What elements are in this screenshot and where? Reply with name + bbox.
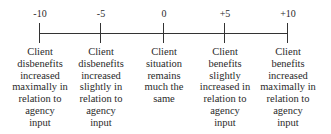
tick-zero [163,23,164,43]
desc-line: Client [68,46,134,58]
desc-line: Client [131,46,197,58]
desc-line: input [68,117,134,129]
tick-plus-10 [287,23,288,43]
tick-label-minus-10: -10 [20,8,60,20]
desc-line: situation [131,58,197,70]
desc-line: relation to [68,93,134,105]
desc-line: same [131,93,197,105]
desc-line: increased in [192,81,258,93]
desc-line: input [7,117,73,129]
desc-line: input [192,117,258,129]
desc-line: maximally in [255,81,321,93]
desc-line: relation to [192,93,258,105]
desc-line: remains [131,70,197,82]
desc-line: benefits [255,58,321,70]
desc-line: slightly [192,70,258,82]
desc-line: increased [255,70,321,82]
desc-line: slightly in [68,81,134,93]
desc-line: benefits [192,58,258,70]
tick-label-plus-10: +10 [268,8,308,20]
desc-line: Client [255,46,321,58]
description-plus-5: Client benefits slightly increased in re… [192,46,258,129]
tick-minus-10 [39,23,40,43]
desc-line: maximally in [7,81,73,93]
desc-line: much the [131,81,197,93]
desc-line: disbenefits [68,58,134,70]
desc-line: relation to [7,93,73,105]
desc-line: input [255,117,321,129]
desc-line: disbenefits [7,58,73,70]
description-minus-10: Client disbenefits increased maximally i… [7,46,73,129]
desc-line: agency [255,105,321,117]
desc-line: agency [7,105,73,117]
description-plus-10: Client benefits increased maximally in r… [255,46,321,129]
desc-line: Client [192,46,258,58]
desc-line: Client [7,46,73,58]
tick-label-zero: 0 [144,8,184,20]
tick-label-plus-5: +5 [205,8,245,20]
desc-line: agency [192,105,258,117]
desc-line: agency [68,105,134,117]
desc-line: increased [7,70,73,82]
desc-line: increased [68,70,134,82]
tick-minus-5 [100,23,101,43]
description-zero: Client situation remains much the same [131,46,197,105]
desc-line: relation to [255,93,321,105]
description-minus-5: Client disbenefits increased slightly in… [68,46,134,129]
tick-plus-5 [224,23,225,43]
tick-label-minus-5: -5 [81,8,121,20]
